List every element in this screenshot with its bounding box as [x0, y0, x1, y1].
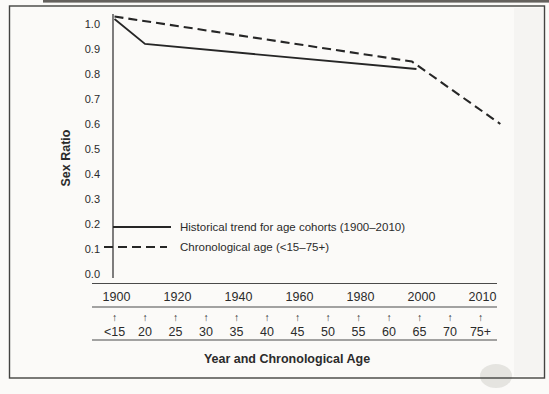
up-arrow-icon: ↑: [234, 311, 239, 323]
figure-frame: [10, 6, 545, 378]
sex-ratio-chart: Sex Ratio Year and Chronological Age His…: [0, 0, 549, 394]
up-arrow-icon: ↑: [325, 311, 330, 323]
age-tick-label: <15: [104, 325, 125, 339]
y-tick-label: 0.9: [85, 43, 100, 55]
year-tick-label: 2000: [408, 290, 436, 304]
age-tick-label: 40: [260, 325, 274, 339]
chronological-age-line: [115, 17, 501, 125]
x-axis-title: Year and Chronological Age: [204, 352, 370, 366]
up-arrow-icon: ↑: [173, 311, 178, 323]
age-tick-label: 60: [382, 325, 396, 339]
y-tick-label: 0.8: [85, 68, 100, 80]
plot-dynamic-layer: 1.00.90.80.70.60.50.40.30.20.10.01900192…: [85, 17, 501, 340]
up-arrow-icon: ↑: [417, 311, 422, 323]
year-tick-label: 1900: [103, 290, 131, 304]
age-tick-label: 65: [413, 325, 427, 339]
up-arrow-icon: ↑: [112, 311, 117, 323]
year-tick-label: 1980: [347, 290, 375, 304]
year-tick-label: 2010: [469, 290, 497, 304]
up-arrow-icon: ↑: [264, 311, 269, 323]
scan-edge-strip: [43, 0, 549, 3]
up-arrow-icon: ↑: [386, 311, 391, 323]
y-axis-title: Sex Ratio: [59, 129, 73, 186]
y-tick-label: 0.6: [85, 118, 100, 130]
age-tick-label: 30: [199, 325, 213, 339]
scan-smudge: [480, 364, 512, 388]
scan-shading: [514, 8, 543, 376]
y-tick-label: 0.1: [85, 243, 100, 255]
y-tick-label: 0.4: [85, 168, 100, 180]
legend: Historical trend for age cohorts (1900–2…: [104, 221, 405, 253]
y-tick-label: 0.7: [85, 93, 100, 105]
age-tick-label: 55: [352, 325, 366, 339]
age-tick-label: 75+: [470, 325, 491, 339]
up-arrow-icon: ↑: [356, 311, 361, 323]
legend-chronological-label: Chronological age (<15–75+): [180, 241, 329, 253]
age-tick-label: 70: [443, 325, 457, 339]
age-tick-label: 50: [321, 325, 335, 339]
age-tick-label: 20: [138, 325, 152, 339]
y-tick-label: 0.2: [85, 218, 100, 230]
y-tick-label: 0.3: [85, 193, 100, 205]
up-arrow-icon: ↑: [295, 311, 300, 323]
year-tick-label: 1940: [225, 290, 253, 304]
up-arrow-icon: ↑: [203, 311, 208, 323]
y-tick-label: 0.5: [85, 143, 100, 155]
historical-trend-line: [115, 19, 417, 69]
up-arrow-icon: ↑: [478, 311, 483, 323]
age-tick-label: 25: [169, 325, 183, 339]
y-tick-label: 0.0: [85, 268, 100, 280]
y-tick-label: 1.0: [85, 18, 100, 30]
scanned-figure-page: Sex Ratio Year and Chronological Age His…: [0, 0, 549, 394]
legend-historical-label: Historical trend for age cohorts (1900–2…: [180, 221, 405, 233]
year-tick-label: 1920: [164, 290, 192, 304]
up-arrow-icon: ↑: [142, 311, 147, 323]
age-tick-label: 45: [291, 325, 305, 339]
age-tick-label: 35: [230, 325, 244, 339]
up-arrow-icon: ↑: [447, 311, 452, 323]
year-tick-label: 1960: [286, 290, 314, 304]
